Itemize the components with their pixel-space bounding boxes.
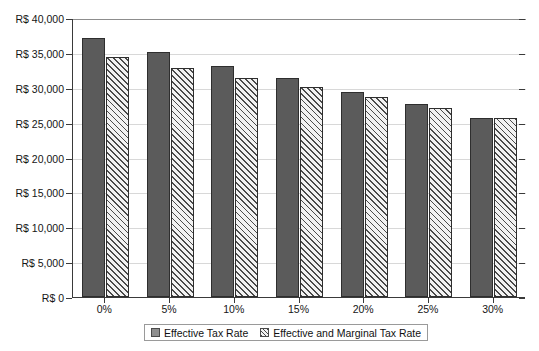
y-axis-tick-right xyxy=(519,298,525,299)
y-axis-tick-label: R$ 30,000 xyxy=(0,84,64,95)
bar xyxy=(300,87,323,297)
y-axis-tick-label: R$ 0 xyxy=(0,293,64,304)
y-axis-tick-right xyxy=(519,263,525,264)
x-axis-tick-label: 10% xyxy=(204,303,264,315)
bar xyxy=(341,92,364,297)
bar xyxy=(235,78,258,297)
x-axis-tick-label: 15% xyxy=(269,303,329,315)
bar xyxy=(470,118,493,297)
bar xyxy=(211,66,234,297)
plot-area xyxy=(72,19,525,298)
y-axis-tick xyxy=(66,159,72,160)
y-axis-tick-label: R$ 35,000 xyxy=(0,49,64,60)
y-axis-tick xyxy=(66,263,72,264)
x-axis-tick-label: 25% xyxy=(398,303,458,315)
bar-chart: R$ 0R$ 5,000R$ 10,000R$ 15,000R$ 20,000R… xyxy=(0,0,539,351)
bar xyxy=(429,108,452,297)
bar xyxy=(405,104,428,297)
y-axis-tick-right xyxy=(519,159,525,160)
y-axis-tick-label: R$ 15,000 xyxy=(0,188,64,199)
y-axis-tick xyxy=(66,124,72,125)
bar xyxy=(365,97,388,297)
bar xyxy=(494,118,517,297)
y-axis-tick xyxy=(66,228,72,229)
gridline xyxy=(73,54,526,55)
y-axis-tick xyxy=(66,193,72,194)
y-axis-tick xyxy=(66,54,72,55)
legend-swatch-icon xyxy=(151,328,160,337)
y-axis-tick-right xyxy=(519,124,525,125)
x-axis-tick-label: 0% xyxy=(74,303,134,315)
y-axis-tick-label: R$ 5,000 xyxy=(0,258,64,269)
legend-label: Effective Tax Rate xyxy=(164,327,248,339)
bar xyxy=(276,78,299,297)
x-axis-tick-label: 20% xyxy=(333,303,393,315)
y-axis-tick-label: R$ 40,000 xyxy=(0,14,64,25)
y-axis-tick xyxy=(66,19,72,20)
y-axis-tick-right xyxy=(519,54,525,55)
y-axis-tick xyxy=(66,298,72,299)
y-axis-tick-label: R$ 20,000 xyxy=(0,154,64,165)
y-axis-tick-right xyxy=(519,89,525,90)
y-axis-tick-right xyxy=(519,19,525,20)
y-axis-tick-right xyxy=(519,193,525,194)
bar xyxy=(82,38,105,297)
bar xyxy=(171,68,194,297)
gridline xyxy=(73,19,526,20)
bar xyxy=(106,57,129,297)
legend-item: Effective and Marginal Tax Rate xyxy=(260,327,421,339)
legend-item: Effective Tax Rate xyxy=(151,327,248,339)
x-axis-tick-label: 30% xyxy=(463,303,523,315)
chart-legend: Effective Tax RateEffective and Marginal… xyxy=(144,324,428,341)
x-axis-tick-label: 5% xyxy=(139,303,199,315)
y-axis-tick-label: R$ 10,000 xyxy=(0,223,64,234)
y-axis-tick-right xyxy=(519,228,525,229)
y-axis-labels: R$ 0R$ 5,000R$ 10,000R$ 15,000R$ 20,000R… xyxy=(0,0,64,351)
y-axis-tick-label: R$ 25,000 xyxy=(0,119,64,130)
legend-label: Effective and Marginal Tax Rate xyxy=(273,327,421,339)
bar xyxy=(147,52,170,297)
y-axis-tick xyxy=(66,89,72,90)
legend-swatch-icon xyxy=(260,328,269,337)
